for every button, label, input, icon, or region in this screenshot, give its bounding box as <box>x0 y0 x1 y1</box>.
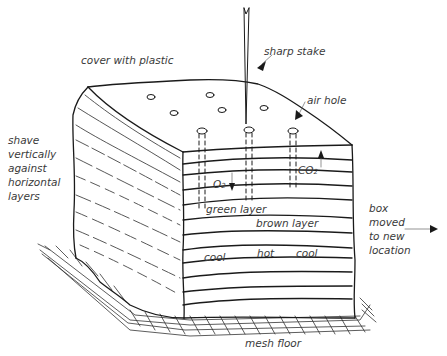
label-sharp-stake: sharp stake <box>264 44 325 58</box>
front-layers <box>183 158 352 305</box>
label-brown-layer: brown layer <box>256 216 318 230</box>
o2-subscript: 2 <box>221 182 225 190</box>
co2-subscript: 2 <box>314 168 318 176</box>
label-air-hole: air hole <box>307 93 346 107</box>
compost-diagram: cover with plastic sharp stake air hole … <box>0 0 447 356</box>
sharp-stake <box>244 8 249 124</box>
label-o2: O2 <box>213 177 226 193</box>
label-box-moved: box moved to new location <box>369 201 411 257</box>
label-green-layer: green layer <box>206 202 266 216</box>
side-layers <box>76 95 180 295</box>
top-holes <box>147 93 268 116</box>
label-mesh-floor: mesh floor <box>245 336 301 350</box>
label-shave-vertically: shave vertically against horizontal laye… <box>8 133 60 203</box>
co2-text: CO <box>298 164 314 176</box>
label-hot: hot <box>257 246 274 260</box>
label-cool-right: cool <box>296 246 318 260</box>
label-cool-left: cool <box>204 250 226 264</box>
label-co2: CO2 <box>298 163 318 179</box>
label-cover-with-plastic: cover with plastic <box>81 53 173 67</box>
